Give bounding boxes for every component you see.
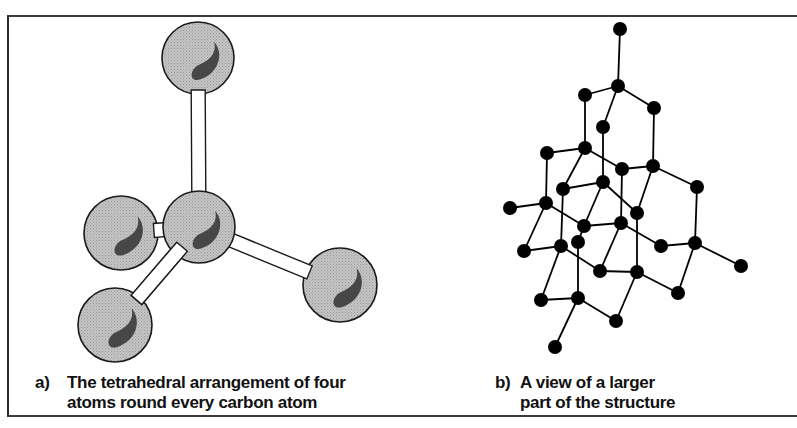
- diamond-lattice-structure: [503, 22, 748, 354]
- caption-a-line2: atoms round every carbon atom: [67, 393, 317, 413]
- caption-b-label: b): [495, 373, 510, 393]
- bond-stick: [191, 90, 206, 195]
- lattice-atom: [647, 101, 661, 115]
- lattice-atom: [571, 235, 585, 249]
- lattice-bond: [637, 166, 653, 213]
- lattice-atom: [554, 239, 568, 253]
- lattice-atom: [654, 239, 668, 253]
- caption-b-line1: A view of a larger: [520, 373, 655, 393]
- lattice-atom: [577, 219, 591, 233]
- lattice-atom: [540, 146, 554, 160]
- lattice-atom: [630, 265, 644, 279]
- lattice-bond: [678, 243, 695, 293]
- lattice-atom: [734, 259, 748, 273]
- lattice-bond: [555, 298, 578, 347]
- lattice-bond: [561, 189, 563, 246]
- lattice-atom: [517, 244, 531, 258]
- lattice-bond: [541, 246, 561, 300]
- bond-stick: [226, 233, 312, 279]
- lattice-bond: [618, 29, 620, 86]
- tetrahedral-model: [78, 22, 377, 362]
- lattice-bond: [695, 243, 741, 266]
- lattice-atom: [503, 201, 517, 215]
- lattice-atom: [630, 206, 644, 220]
- lattice-atom: [688, 236, 702, 250]
- caption-a-line1: The tetrahedral arrangement of four: [67, 373, 346, 393]
- lattice-atom: [578, 88, 592, 102]
- lattice-atom: [646, 159, 660, 173]
- lattice-atom: [571, 291, 585, 305]
- lattice-atom: [609, 314, 623, 328]
- lattice-bond: [546, 153, 547, 203]
- lattice-bond: [653, 166, 697, 187]
- atom-sphere-right: [303, 248, 377, 322]
- lattice-atom: [556, 182, 570, 196]
- lattice-atom: [615, 162, 629, 176]
- lattice-atom: [614, 216, 628, 230]
- lattice-bond: [616, 272, 637, 321]
- lattice-atom: [671, 286, 685, 300]
- lattice-atom: [613, 22, 627, 36]
- atom-sphere-top: [162, 22, 234, 94]
- lattice-bond: [584, 182, 603, 226]
- lattice-atom: [539, 196, 553, 210]
- lattice-atom: [548, 340, 562, 354]
- lattice-atom: [611, 79, 625, 93]
- lattice-bond: [600, 223, 621, 271]
- lattice-atom: [596, 120, 610, 134]
- atom-sphere-left: [84, 196, 158, 270]
- lattice-bond: [695, 187, 697, 243]
- caption-a-label: a): [35, 373, 50, 393]
- lattice-atom: [596, 175, 610, 189]
- lattice-atom: [690, 180, 704, 194]
- lattice-bond: [524, 203, 546, 251]
- lattice-atom: [578, 141, 592, 155]
- lattice-bond: [621, 169, 622, 223]
- lattice-bond: [653, 108, 654, 166]
- lattice-atom: [593, 264, 607, 278]
- lattice-atoms: [503, 22, 748, 354]
- caption-b-line2: part of the structure: [520, 393, 675, 413]
- lattice-atom: [534, 293, 548, 307]
